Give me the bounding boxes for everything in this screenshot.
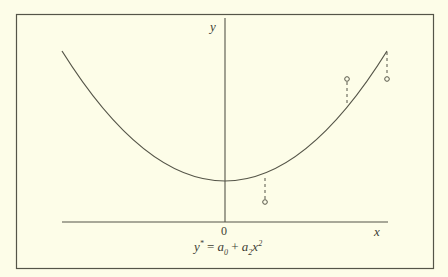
eq-equals: = [204,239,218,254]
equation-caption: y* = a0 + a2x2 [0,240,448,257]
x-axis-label: x [374,225,380,238]
residual-3 [385,52,390,81]
data-point-marker [263,200,268,205]
data-point-marker [345,77,350,82]
eq-plus: + [228,239,242,254]
y-axis-label: y [210,20,216,33]
residual-1 [263,178,268,204]
eq-x-sup: 2 [258,239,262,248]
residual-2 [345,77,350,104]
origin-label: 0 [221,225,227,237]
figure: y x 0 y* = a0 + a2x2 [0,0,448,277]
data-point-marker [385,77,390,82]
